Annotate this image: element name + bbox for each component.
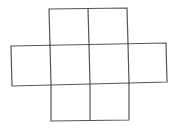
net-svg — [0, 0, 178, 134]
squares-group — [11, 8, 167, 121]
net-diagram — [0, 0, 178, 134]
middle-divider-3 — [128, 44, 129, 84]
top-row-divider — [88, 9, 89, 46]
middle-divider-1 — [50, 45, 51, 85]
middle-divider-2 — [89, 45, 90, 85]
